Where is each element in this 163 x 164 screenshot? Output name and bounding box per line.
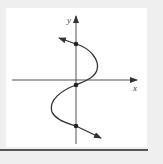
y-axis-label: y <box>66 15 71 25</box>
point-middle <box>74 83 79 88</box>
point-bottom <box>74 124 79 129</box>
graph: y x <box>0 0 163 164</box>
curve-arrow-bottom <box>76 126 101 138</box>
divider-rule <box>0 149 148 151</box>
point-top <box>74 42 79 47</box>
x-axis-label: x <box>132 83 137 93</box>
curve-arrow-top <box>59 38 76 44</box>
